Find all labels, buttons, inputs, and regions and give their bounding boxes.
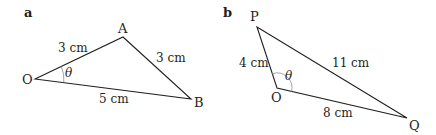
vertex-p: P [250, 9, 259, 24]
vertex-a: A [117, 21, 128, 36]
vertex-b: B [194, 95, 204, 110]
side-ab-label: 3 cm [156, 51, 186, 65]
angle-arc-a [61, 67, 64, 83]
vertex-o-a: O [22, 72, 33, 87]
side-ob-label: 5 cm [99, 92, 129, 106]
side-oq-label: 8 cm [323, 106, 353, 120]
side-op-label: 4 cm [239, 56, 269, 70]
panel-label-b: b [223, 5, 232, 20]
theta-label-b: θ [285, 69, 293, 83]
figure-b: b θ P O Q 4 cm 11 cm 8 cm [223, 5, 420, 133]
triangle-diagrams: a θ O A B 3 cm 3 cm 5 cm b θ P O Q 4 cm … [0, 0, 436, 135]
side-oa-label: 3 cm [58, 41, 88, 55]
vertex-q: Q [409, 118, 420, 133]
figure-a: a θ O A B 3 cm 3 cm 5 cm [22, 5, 204, 110]
panel-label-a: a [24, 5, 33, 20]
theta-label-a: θ [65, 66, 73, 80]
vertex-o-b: O [271, 90, 282, 105]
side-pq-label: 11 cm [332, 56, 370, 70]
